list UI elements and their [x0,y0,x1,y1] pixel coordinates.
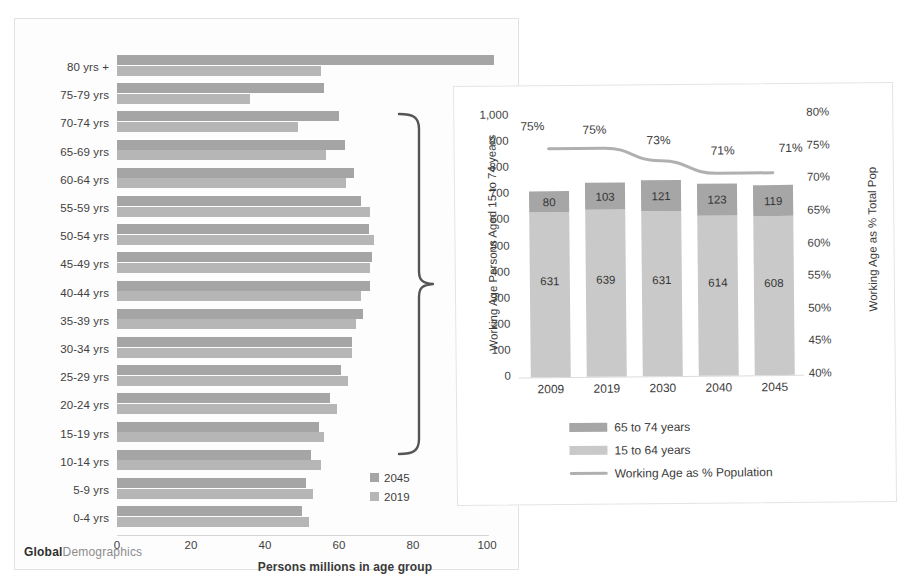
legend-item[interactable]: 2019 [370,487,410,506]
bar-2019 [117,150,326,160]
age-group-label: 50-54 yrs [15,230,109,242]
age-group-label: 15-19 yrs [15,428,109,440]
bar-2019 [117,348,352,358]
segment-65-74: 121 [641,180,681,212]
bar-2045 [117,478,306,488]
segment-value: 639 [596,273,615,285]
bar-2019 [117,122,298,132]
age-range-brace-icon [395,111,437,457]
working-age-plot-area: Working Age Persons Aged 15 to 74 years … [454,83,898,507]
segment-value: 614 [708,276,727,288]
age-group-label: 25-29 yrs [15,371,109,383]
bar-2045 [117,111,339,121]
segment-65-74: 80 [529,191,569,212]
category-label: 2040 [691,380,747,395]
segment-value: 631 [652,274,671,286]
right-y-tick: 70% [807,171,847,183]
percent-data-label: 75% [582,122,606,136]
bar-2045 [117,252,372,262]
segment-value: 608 [764,277,783,289]
legend-line-icon [570,472,608,475]
left-y-tick: 900 [462,135,508,147]
x-axis-title: Persons millions in age group [195,560,495,574]
left-y-tick: 200 [464,317,510,329]
segment-value: 103 [595,190,614,202]
right-y-tick: 40% [809,366,849,378]
age-group-label: 20-24 yrs [15,399,109,411]
bar-2019 [117,235,374,245]
age-group-label: 65-69 yrs [15,146,109,158]
x-axis-tick: 80 [393,539,433,551]
legend-swatch-icon [370,492,379,501]
stacked-column: 614123 [696,84,739,375]
bar-2019 [117,207,370,217]
legend-swatch-icon [569,423,607,432]
age-group-label: 40-44 yrs [15,287,109,299]
bar-2045 [117,365,341,375]
age-group-label: 0-4 yrs [15,512,109,524]
legend-label: 2019 [384,491,410,503]
segment-value: 119 [764,195,782,207]
legend-label: 2045 [384,472,410,484]
percent-data-label: 71% [711,143,735,157]
segment-value: 631 [540,275,559,287]
right-y-tick: 50% [808,301,848,313]
age-group-label: 30-34 yrs [15,343,109,355]
x-axis-tick: 20 [171,539,211,551]
x-axis-tick: 40 [245,539,285,551]
bar-2045 [117,140,345,150]
bar-2045 [117,281,370,291]
left-y-tick: 1,000 [462,109,508,121]
segment-value: 121 [651,190,670,202]
bar-2045 [117,450,311,460]
legend-label: Working Age as % Population [615,465,773,481]
bar-2019 [117,460,321,470]
working-age-legend: 65 to 74 years15 to 64 yearsWorking Age … [569,414,773,485]
age-group-label: 5-9 yrs [15,484,109,496]
legend-item[interactable]: 65 to 74 years [569,414,772,439]
left-y-tick: 300 [464,291,510,303]
segment-65-74: 123 [697,183,737,215]
category-label: 2045 [747,380,803,395]
bar-2019 [117,404,337,414]
brand-bold: Global [24,545,63,559]
bar-2019 [117,432,324,442]
segment-15-64: 639 [585,210,627,377]
left-y-tick: 800 [463,161,509,173]
right-y-tick: 55% [808,268,848,280]
legend-label: 15 to 64 years [614,442,690,457]
bar-2045 [117,83,324,93]
segment-65-74: 119 [753,185,793,216]
brand-logo: GlobalDemographics [24,545,142,559]
bar-2019 [117,376,348,386]
bar-2019 [117,319,356,329]
age-group-label: 60-64 yrs [15,174,109,186]
legend-label: 65 to 74 years [614,419,690,434]
bar-2019 [117,489,313,499]
age-group-label: 80 yrs + [15,61,109,73]
right-y-tick: 60% [807,236,847,248]
legend-swatch-icon [370,473,379,482]
x-axis-tick: 100 [467,539,507,551]
bar-2019 [117,517,309,527]
legend-item[interactable]: Working Age as % Population [570,460,773,485]
right-y-axis-title: Working Age as % Total Pop [865,114,879,364]
bar-2045 [117,393,330,403]
left-y-tick: 600 [463,213,509,225]
category-label: 2019 [579,381,635,396]
pyramid-legend: 20452019 [370,468,410,506]
right-y-tick: 80% [806,105,846,117]
age-group-label: 55-59 yrs [15,202,109,214]
right-y-tick: 65% [807,203,847,215]
segment-15-64: 631 [529,212,571,377]
bar-2045 [117,337,352,347]
legend-item[interactable]: 15 to 64 years [569,437,772,462]
age-group-label: 10-14 yrs [15,456,109,468]
percent-data-label: 75% [520,119,544,133]
left-y-tick: 100 [464,343,510,355]
segment-value: 80 [543,196,556,208]
legend-item[interactable]: 2045 [370,468,410,487]
stacked-column: 631121 [640,85,683,376]
bar-2045 [117,506,302,516]
x-axis-line [117,535,489,536]
